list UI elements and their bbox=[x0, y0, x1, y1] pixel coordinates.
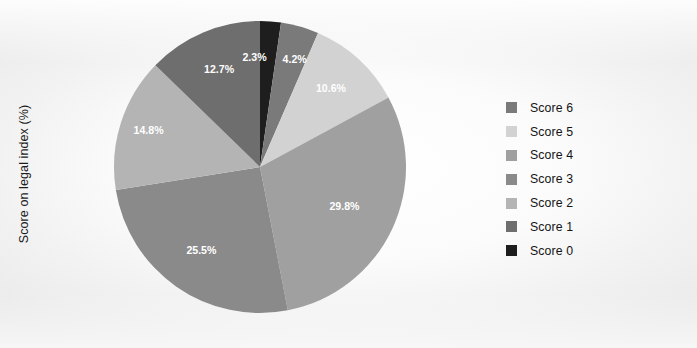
y-axis-label-container: Score on legal index (%) bbox=[0, 0, 48, 348]
pie-slice[interactable] bbox=[116, 167, 288, 313]
legend-label: Score 4 bbox=[530, 148, 573, 162]
legend-label: Score 6 bbox=[530, 101, 573, 115]
legend-label: Score 3 bbox=[530, 172, 573, 186]
pie-slice-label: 12.7% bbox=[204, 63, 235, 75]
pie-slice-group bbox=[114, 21, 406, 313]
legend-color-swatch bbox=[506, 221, 517, 232]
legend-color-swatch bbox=[506, 245, 517, 256]
legend-item[interactable]: Score 6 bbox=[506, 96, 646, 120]
pie-slice-label: 10.6% bbox=[316, 82, 347, 94]
pie-slice-label: 25.5% bbox=[186, 244, 217, 256]
legend-item[interactable]: Score 4 bbox=[506, 144, 646, 168]
chart-figure: Score on legal index (%) 2.3%4.2%10.6%29… bbox=[0, 0, 697, 348]
pie-slice-label: 2.3% bbox=[242, 51, 267, 63]
pie-slice-label: 14.8% bbox=[134, 124, 165, 136]
legend: Score 6Score 5Score 4Score 3Score 2Score… bbox=[506, 96, 646, 263]
pie-slice-label: 29.8% bbox=[329, 200, 360, 212]
legend-item[interactable]: Score 0 bbox=[506, 239, 646, 263]
legend-item[interactable]: Score 5 bbox=[506, 120, 646, 144]
legend-label: Score 1 bbox=[530, 220, 573, 234]
legend-color-swatch bbox=[506, 198, 517, 209]
legend-color-swatch bbox=[506, 174, 517, 185]
legend-label: Score 2 bbox=[530, 196, 573, 210]
legend-color-swatch bbox=[506, 126, 517, 137]
legend-item[interactable]: Score 2 bbox=[506, 191, 646, 215]
y-axis-label: Score on legal index (%) bbox=[17, 105, 31, 244]
legend-label: Score 5 bbox=[530, 125, 573, 139]
legend-color-swatch bbox=[506, 150, 517, 161]
pie-chart-svg: 2.3%4.2%10.6%29.8%25.5%14.8%12.7% bbox=[114, 16, 414, 318]
legend-label: Score 0 bbox=[530, 244, 573, 258]
legend-item[interactable]: Score 1 bbox=[506, 215, 646, 239]
pie-chart: 2.3%4.2%10.6%29.8%25.5%14.8%12.7% bbox=[114, 16, 414, 318]
pie-slice-label: 4.2% bbox=[283, 53, 308, 65]
legend-color-swatch bbox=[506, 102, 517, 113]
legend-item[interactable]: Score 3 bbox=[506, 167, 646, 191]
